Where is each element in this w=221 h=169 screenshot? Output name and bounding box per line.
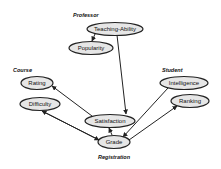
node-label: Popularity: [78, 45, 105, 51]
node-intelligence: Intelligence: [160, 77, 208, 90]
edge-grade-to-satisfaction: [109, 128, 112, 135]
node-label: Grade: [106, 139, 123, 145]
node-label: Intelligence: [169, 80, 200, 86]
group-label-professor: Professor: [73, 12, 100, 18]
edge-intelligence-to-grade: [123, 88, 168, 137]
group-label-course: Course: [13, 67, 32, 73]
node-label: Rating: [28, 80, 45, 86]
node-label: Satisfaction: [94, 118, 125, 124]
node-label: Ranking: [179, 98, 201, 104]
node-label: Difficulty: [29, 101, 52, 107]
group-label-registration: Registration: [98, 154, 131, 160]
nodes: Teaching-AbilityPopularityRatingDifficul…: [20, 23, 209, 149]
edge-teaching_ability-to-popularity: [92, 34, 95, 41]
relational-model-diagram: Teaching-AbilityPopularityRatingDifficul…: [0, 0, 221, 169]
node-grade: Grade: [98, 136, 130, 149]
node-ranking: Ranking: [171, 95, 209, 108]
node-teaching-ability: Teaching-Ability: [87, 23, 143, 36]
node-label: Teaching-Ability: [94, 26, 136, 32]
node-popularity: Popularity: [69, 42, 113, 55]
edge-teaching_ability-to-satisfaction: [117, 35, 126, 114]
node-satisfaction: Satisfaction: [85, 115, 135, 128]
node-difficulty: Difficulty: [20, 98, 60, 111]
group-label-student: Student: [162, 67, 184, 73]
node-rating: Rating: [21, 77, 53, 90]
